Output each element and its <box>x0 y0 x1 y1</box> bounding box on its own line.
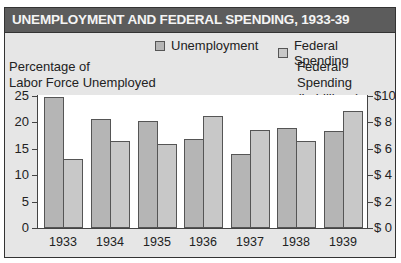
bar-federal-1939 <box>343 111 363 228</box>
bar-unemployment-1934 <box>91 119 111 228</box>
right-tick-label: $ 4 <box>374 167 392 182</box>
right-tick-mark <box>368 228 373 229</box>
left-tick-label: 25 <box>9 88 29 103</box>
right-tick-mark <box>368 175 373 176</box>
legend-label-unemployment: Unemployment <box>171 38 258 53</box>
x-tick-label: 1935 <box>137 235 177 249</box>
right-tick-mark <box>368 149 373 150</box>
left-tick-label: 15 <box>9 141 29 156</box>
right-tick-label: $ 2 <box>374 194 392 209</box>
legend-item-unemployment: Unemployment <box>155 38 258 53</box>
plot-area <box>37 95 368 229</box>
bar-federal-1936 <box>203 116 223 228</box>
bar-federal-1935 <box>157 144 177 228</box>
legend-swatch-unemployment <box>155 41 165 51</box>
right-tick-mark <box>368 122 373 123</box>
bar-unemployment-1935 <box>138 121 158 228</box>
legend-swatch-federal <box>278 48 288 58</box>
x-tick-label: 1937 <box>230 235 270 249</box>
x-tick-label: 1934 <box>90 235 130 249</box>
left-axis-label: Percentage of Labor Force Unemployed <box>9 59 156 91</box>
left-tick-label: 10 <box>9 167 29 182</box>
chart-title: UNEMPLOYMENT AND FEDERAL SPENDING, 1933-… <box>5 8 395 33</box>
bar-unemployment-1938 <box>277 128 297 228</box>
x-tick-label: 1938 <box>276 235 316 249</box>
bar-unemployment-1933 <box>44 97 64 228</box>
bar-unemployment-1936 <box>184 139 204 228</box>
right-tick-mark <box>368 202 373 203</box>
left-tick-label: 5 <box>9 194 29 209</box>
right-tick-label: $ 6 <box>374 141 392 156</box>
right-axis-label-line1: Federal Spending <box>297 59 395 91</box>
bar-unemployment-1939 <box>324 131 344 228</box>
left-tick-label: 20 <box>9 114 29 129</box>
chart-frame: UNEMPLOYMENT AND FEDERAL SPENDING, 1933-… <box>4 7 396 258</box>
left-axis-label-line2: Labor Force Unemployed <box>9 75 156 91</box>
bar-federal-1937 <box>250 130 270 228</box>
right-tick-label: $ 8 <box>374 114 392 129</box>
bar-federal-1933 <box>63 159 83 228</box>
right-tick-label: $ 0 <box>374 220 392 235</box>
right-tick-label: $10 <box>374 88 396 103</box>
bar-federal-1934 <box>110 141 130 228</box>
left-axis-label-line1: Percentage of <box>9 59 156 75</box>
x-tick-label: 1936 <box>183 235 223 249</box>
bar-federal-1938 <box>296 141 316 228</box>
x-tick-label: 1933 <box>43 235 83 249</box>
bar-unemployment-1937 <box>231 154 251 228</box>
x-tick-label: 1939 <box>323 235 363 249</box>
right-tick-mark <box>368 96 373 97</box>
left-tick-label: 0 <box>9 220 29 235</box>
